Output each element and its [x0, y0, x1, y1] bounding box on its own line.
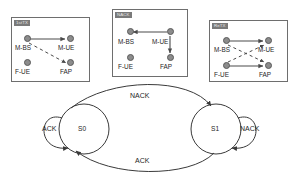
node-m-bs	[24, 35, 31, 42]
figure-canvas: 1stTX M-BS M-UE F-UE FAP NACK	[0, 0, 299, 177]
node-m-bs	[223, 37, 230, 44]
node-m-bs	[127, 28, 134, 35]
transition-label-s1-to-s0: ACK	[135, 157, 149, 165]
panel-re-tx: ReTX M-BS M-UE F-UE FAP	[209, 20, 288, 82]
state-label-s1: S1	[211, 125, 219, 133]
transition-label-s0-self: ACK	[42, 125, 56, 133]
panel-1st-tx: 1stTX M-BS M-UE F-UE FAP	[11, 17, 90, 82]
transition-label-s0-to-s1: NACK	[130, 92, 149, 100]
node-m-ue	[265, 37, 272, 44]
node-label-f-ue: F-UE	[118, 63, 133, 70]
state-label-s0: S0	[78, 125, 86, 133]
node-fap	[67, 59, 74, 66]
node-label-m-bs: M-BS	[15, 44, 31, 51]
node-f-ue	[127, 54, 134, 61]
node-label-fap: FAP	[160, 63, 172, 70]
node-fap	[265, 62, 272, 69]
node-label-fap: FAP	[60, 68, 72, 75]
transition-label-s1-self: NACK	[240, 125, 259, 133]
node-m-ue	[67, 35, 74, 42]
panel-nack: NACK M-BS M-UE F-UE FAP	[112, 9, 188, 77]
node-label-f-ue: F-UE	[15, 68, 30, 75]
node-m-ue	[167, 28, 174, 35]
node-f-ue	[223, 62, 230, 69]
state-machine: S0 S1 NACK ACK ACK NACK	[0, 82, 299, 177]
node-label-fap: FAP	[259, 71, 271, 78]
node-label-m-ue: M-UE	[58, 44, 74, 51]
node-label-m-bs: M-BS	[214, 46, 230, 53]
node-label-m-ue: M-UE	[258, 46, 274, 53]
node-f-ue	[24, 59, 31, 66]
node-label-m-bs: M-BS	[118, 38, 134, 45]
node-label-f-ue: F-UE	[214, 71, 229, 78]
node-fap	[167, 54, 174, 61]
node-label-m-ue: M-UE	[152, 38, 168, 45]
